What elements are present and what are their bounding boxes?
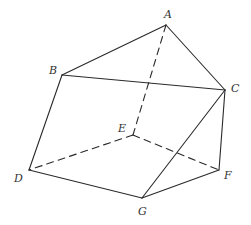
vertex-label-b: B: [48, 64, 57, 77]
polyhedron-figure: A B C D E F G: [0, 0, 251, 225]
vertex-label-d: D: [13, 172, 23, 185]
edge-ab: [62, 25, 166, 75]
vertex-label-e: E: [117, 122, 126, 135]
hidden-edges: [29, 25, 219, 170]
vertex-label-f: F: [223, 169, 232, 182]
edge-bd: [29, 75, 62, 170]
edge-bc: [62, 75, 225, 90]
edge-cf: [219, 90, 225, 170]
vertex-label-g: G: [138, 205, 147, 218]
edge-dg: [29, 170, 142, 198]
diagram-canvas: A B C D E F G: [0, 0, 251, 225]
vertex-label-a: A: [163, 8, 172, 21]
edge-ed-hidden: [29, 135, 133, 170]
vertex-label-c: C: [231, 82, 240, 95]
edge-ac: [166, 25, 225, 90]
edge-ae-hidden: [133, 25, 166, 135]
edge-cg: [142, 90, 225, 198]
edge-ef-hidden: [133, 135, 219, 170]
vertex-labels: A B C D E F G: [13, 8, 240, 218]
edge-gf: [142, 170, 219, 198]
visible-edges: [29, 25, 225, 198]
